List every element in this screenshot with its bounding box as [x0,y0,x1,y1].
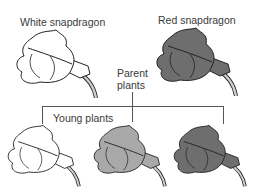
parent-plants-label-2: plants [117,79,145,91]
snapdragon-flower-icon [2,122,87,188]
offspring-red-flower [168,122,253,188]
snapdragon-flower-icon [10,28,105,98]
offspring-pink-flower [88,122,173,188]
red-parent-flower [150,26,245,96]
parent-plants-label-1: Parent [117,67,148,79]
red-snapdragon-label: Red snapdragon [158,14,236,26]
snapdragon-flower-icon [88,122,173,188]
white-snapdragon-label: White snapdragon [20,16,105,28]
offspring-white-flower [2,122,87,188]
white-parent-flower [10,28,105,98]
snapdragon-flower-icon [168,122,253,188]
snapdragon-flower-icon [150,26,245,96]
connector-horizontal [42,106,224,107]
connector-vertical-parent [132,92,133,122]
